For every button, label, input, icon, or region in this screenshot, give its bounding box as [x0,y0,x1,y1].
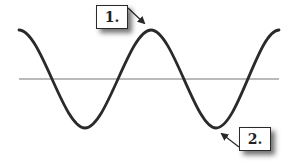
trough-label-text: 2. [248,131,263,147]
crest-label: 1. [96,5,128,29]
arrow-to-trough [222,134,239,147]
crest-label-text: 1. [105,9,120,25]
arrow-to-crest [128,8,144,23]
trough-label: 2. [239,127,271,151]
